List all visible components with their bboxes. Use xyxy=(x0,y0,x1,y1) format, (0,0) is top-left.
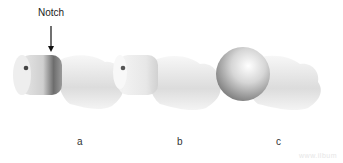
panel-c-femur xyxy=(216,47,321,110)
panel-a-femur xyxy=(13,26,123,109)
panel-label-c: c xyxy=(276,136,281,147)
notch-label: Notch xyxy=(38,7,64,18)
diagram-canvas xyxy=(0,0,343,163)
pin-hole xyxy=(24,66,29,71)
panel-label-b: b xyxy=(177,136,183,147)
panel-b-femur xyxy=(113,55,220,110)
watermark: www.ilbum xyxy=(299,152,337,159)
sphere-c xyxy=(216,47,270,101)
pin-hole xyxy=(121,66,126,71)
panel-label-a: a xyxy=(77,136,83,147)
